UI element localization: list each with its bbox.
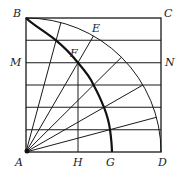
label-c: C	[164, 7, 173, 20]
label-g: G	[106, 156, 115, 169]
label-h: H	[72, 156, 83, 169]
label-a: A	[14, 156, 23, 169]
label-b: B	[12, 7, 21, 20]
point-a-dot	[25, 149, 30, 154]
label-f: F	[69, 47, 78, 60]
radial-lines	[26, 23, 156, 152]
label-n: N	[164, 56, 175, 69]
quadratrix-diagram: B C A D E F M N H G	[0, 0, 182, 177]
label-d: D	[157, 156, 167, 169]
label-e: E	[91, 22, 100, 35]
label-m: M	[9, 56, 22, 69]
line-ae	[26, 36, 94, 152]
